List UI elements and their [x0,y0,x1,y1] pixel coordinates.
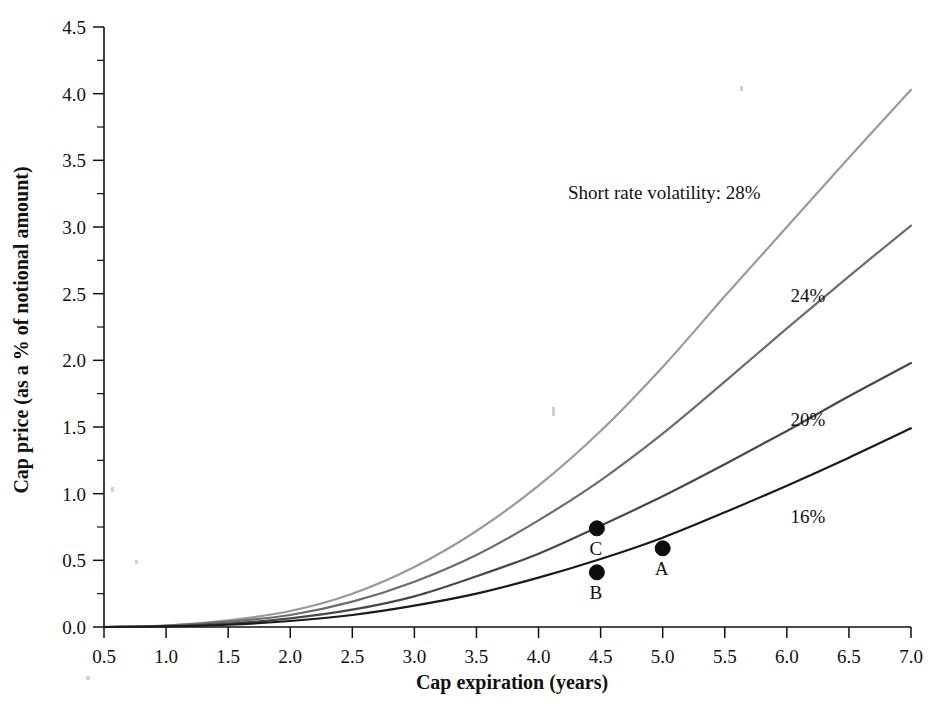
scan-artifacts [86,86,743,680]
x-tick-label: 5.0 [651,646,675,667]
x-tick-label: 5.5 [713,646,737,667]
x-tick-label: 2.0 [278,646,302,667]
data-point-b [589,565,604,580]
cap-price-chart: 0.00.51.01.52.02.53.03.54.04.5 0.51.01.5… [0,0,930,706]
y-axis-ticks: 0.00.51.01.52.02.53.03.54.04.5 [62,17,104,638]
series-label-16pct: 16% [791,506,826,527]
x-tick-label: 0.5 [92,646,116,667]
marked-points: ABC [589,521,670,604]
x-tick-label: 1.5 [216,646,240,667]
y-tick-label: 2.5 [62,284,86,305]
data-point-c [589,521,604,536]
data-point-label-b: B [590,582,603,603]
y-axis-title: Cap price (as a % of notional amount) [10,166,33,493]
series-label-20pct: 20% [791,409,826,430]
data-point-label-a: A [655,558,669,579]
y-tick-label: 3.0 [62,217,86,238]
series-label-24pct: 24% [791,285,826,306]
x-tick-label: 6.5 [837,646,861,667]
y-tick-label: 2.0 [62,350,86,371]
chart-figure: 0.00.51.01.52.02.53.03.54.04.5 0.51.01.5… [0,0,930,706]
x-tick-label: 4.0 [527,646,551,667]
x-tick-label: 3.5 [465,646,489,667]
y-tick-label: 4.0 [62,84,86,105]
y-tick-label: 1.5 [62,417,86,438]
volatility-annotation: Short rate volatility: 28% [568,182,761,203]
x-tick-label: 3.0 [403,646,427,667]
x-tick-label: 4.5 [589,646,613,667]
y-tick-label: 4.5 [62,17,86,38]
x-tick-label: 7.0 [899,646,923,667]
y-tick-label: 0.5 [62,550,86,571]
series-curve-16pct [104,428,911,627]
x-tick-label: 6.0 [775,646,799,667]
y-tick-label: 1.0 [62,484,86,505]
series-curve-28pct [104,90,911,627]
series-curves [104,90,911,627]
series-curve-20pct [104,363,911,627]
data-point-a [655,541,670,556]
x-axis-title: Cap expiration (years) [416,671,608,694]
y-tick-label: 3.5 [62,150,86,171]
x-axis-ticks: 0.51.01.52.02.53.03.54.04.55.05.56.06.57… [92,627,923,667]
x-tick-label: 1.0 [154,646,178,667]
x-tick-label: 2.5 [340,646,364,667]
data-point-label-c: C [590,538,603,559]
y-tick-label: 0.0 [62,617,86,638]
